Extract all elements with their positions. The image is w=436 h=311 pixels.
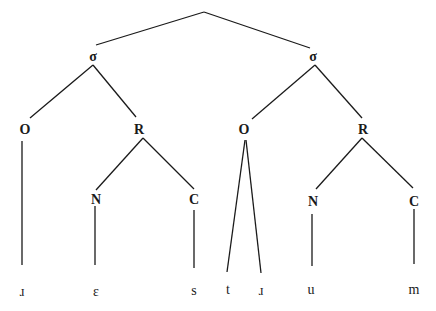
segment-leaf: t (226, 283, 230, 297)
coda-node-2: C (409, 195, 419, 209)
segment-leaf: u (308, 283, 315, 297)
rhyme-node-2: R (358, 123, 368, 137)
coda-node-1: C (189, 193, 199, 207)
segment-leaf: ɹ (259, 284, 264, 298)
onset-node-1: O (20, 123, 31, 137)
onset-node-2: O (239, 123, 250, 137)
segment-leaf: ɛ (93, 285, 99, 299)
segment-leaf: ɹ (20, 285, 25, 299)
nucleus-node-1: N (91, 193, 101, 207)
rhyme-node-1: R (134, 123, 144, 137)
syllable-node-1: σ (89, 50, 97, 64)
segment-leaf: s (191, 284, 196, 298)
tree-edges (0, 0, 436, 311)
nucleus-node-2: N (308, 195, 318, 209)
segment-leaf: m (409, 283, 420, 297)
syllable-node-2: σ (309, 50, 317, 64)
